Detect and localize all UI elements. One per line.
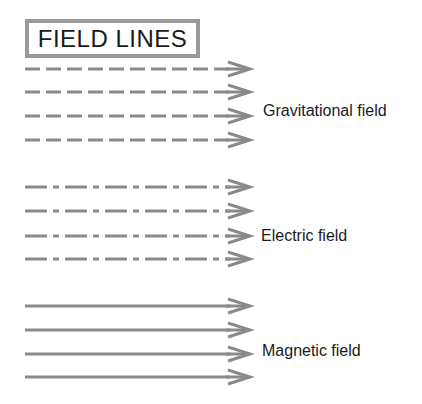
- electric-field-lines: [25, 180, 250, 266]
- gravitational-field-label: Gravitational field: [263, 102, 387, 120]
- gravitational-field-lines: [25, 62, 250, 147]
- magnetic-field-lines: [25, 299, 250, 384]
- magnetic-field-label: Magnetic field: [262, 342, 361, 360]
- electric-field-label: Electric field: [261, 227, 347, 245]
